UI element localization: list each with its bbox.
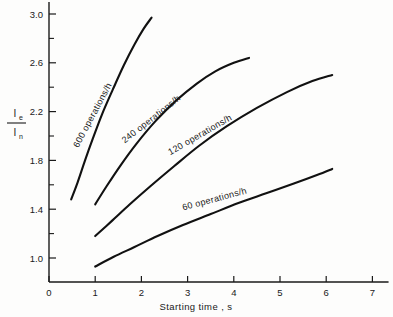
y-tick-label: 1.0 (30, 253, 43, 264)
y-axis-denominator: I (14, 127, 17, 138)
y-axis-tick-labels: 1.01.41.82.22.63.0 (30, 9, 43, 264)
y-tick-label: 2.6 (30, 57, 43, 68)
y-tick-label: 1.4 (30, 204, 43, 215)
x-axis-title: Starting time , s (160, 301, 233, 312)
x-axis-ticks (49, 276, 372, 282)
series-label: 60 operations/h (181, 186, 248, 213)
y-tick-label: 2.2 (30, 106, 43, 117)
series-label: 240 operations/h (120, 93, 183, 145)
series-curve (71, 18, 151, 200)
y-axis-title: I e I n (7, 108, 26, 140)
series-curve (95, 169, 332, 267)
series-curve (95, 58, 249, 204)
chart-figure: 01234567 1.01.41.82.22.63.0 600 operatio… (0, 0, 393, 317)
x-tick-label: 4 (231, 287, 236, 298)
axes-group (49, 2, 389, 282)
x-tick-label: 0 (46, 287, 51, 298)
x-tick-label: 5 (277, 287, 282, 298)
y-tick-label: 3.0 (30, 9, 43, 20)
x-tick-label: 1 (93, 287, 98, 298)
y-axis-numerator-subscript: e (19, 114, 23, 121)
y-axis-minor-ticks (49, 38, 54, 233)
x-tick-label: 6 (324, 287, 329, 298)
line-chart: 01234567 1.01.41.82.22.63.0 600 operatio… (0, 0, 393, 317)
x-tick-label: 7 (370, 287, 375, 298)
y-axis-numerator: I (14, 108, 17, 119)
x-tick-label: 3 (185, 287, 190, 298)
curve-labels: 600 operations/h240 operations/h120 oper… (71, 81, 248, 212)
series-label: 120 operations/h (166, 112, 233, 157)
y-axis-denominator-subscript: n (19, 133, 23, 140)
y-tick-label: 1.8 (30, 155, 43, 166)
data-curves (71, 18, 332, 267)
x-axis-tick-labels: 01234567 (46, 287, 375, 298)
x-tick-label: 2 (139, 287, 144, 298)
